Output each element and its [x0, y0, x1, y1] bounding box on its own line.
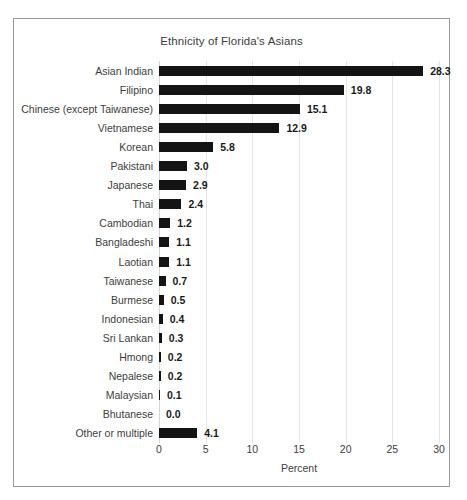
bar-category-label: Asian Indian [95, 65, 153, 77]
bar [159, 161, 187, 171]
x-tick-label: 25 [386, 443, 398, 455]
bar-category-label: Chinese (except Taiwanese) [21, 103, 153, 115]
bar-value-label: 0.1 [167, 389, 182, 401]
bar-row: Hmong0.2 [159, 348, 467, 367]
x-tick-label: 0 [156, 443, 162, 455]
bar-value-label: 5.8 [220, 141, 235, 153]
x-tick-label: 30 [433, 443, 445, 455]
bar-category-label: Other or multiple [75, 427, 153, 439]
bar-category-label: Nepalese [109, 370, 153, 382]
bar-category-label: Bhutanese [103, 408, 153, 420]
bar-value-label: 0.2 [168, 351, 183, 363]
x-axis-title: Percent [159, 462, 439, 474]
plot-area: Asian Indian28.3Filipino19.8Chinese (exc… [159, 61, 439, 443]
bar [159, 123, 279, 133]
bar-category-label: Malaysian [106, 389, 153, 401]
bar-value-label: 4.1 [204, 427, 219, 439]
bar-value-label: 19.8 [351, 84, 371, 96]
x-tick-label: 15 [293, 443, 305, 455]
bar-value-label: 28.3 [430, 65, 450, 77]
bar-row: Korean5.8 [159, 137, 467, 156]
bar [159, 85, 344, 95]
bar-row: Chinese (except Taiwanese)15.1 [159, 99, 467, 118]
bar-category-label: Bangladeshi [95, 236, 153, 248]
bar [159, 237, 169, 247]
bar-value-label: 2.4 [188, 198, 203, 210]
bar-row: Burmese0.5 [159, 290, 467, 309]
bar-row: Japanese2.9 [159, 176, 467, 195]
x-tick-label: 5 [203, 443, 209, 455]
bar-value-label: 0.5 [171, 294, 186, 306]
bar-value-label: 2.9 [193, 179, 208, 191]
bar [159, 199, 181, 209]
bar-category-label: Japanese [107, 179, 153, 191]
bar-row: Taiwanese0.7 [159, 271, 467, 290]
bar [159, 428, 197, 438]
bar-value-label: 0.0 [166, 408, 181, 420]
bar [159, 352, 161, 362]
bar-row: Bhutanese0.0 [159, 405, 467, 424]
bar-value-label: 1.1 [176, 256, 191, 268]
bar-row: Cambodian1.2 [159, 214, 467, 233]
bar-row: Pakistani3.0 [159, 157, 467, 176]
bar-row: Thai2.4 [159, 195, 467, 214]
bar-value-label: 12.9 [286, 122, 306, 134]
bar-category-label: Burmese [111, 294, 153, 306]
bar-row: Bangladeshi1.1 [159, 233, 467, 252]
bar-value-label: 0.3 [169, 332, 184, 344]
bar [159, 104, 300, 114]
bar [159, 142, 213, 152]
bar-value-label: 1.2 [177, 217, 192, 229]
bar-category-label: Thai [133, 198, 153, 210]
bar-category-label: Hmong [119, 351, 153, 363]
bar [159, 257, 169, 267]
bar-row: Filipino19.8 [159, 80, 467, 99]
chart-frame: Ethnicity of Florida's Asians Asian Indi… [13, 18, 450, 487]
bar-category-label: Korean [119, 141, 153, 153]
bar-row: Other or multiple4.1 [159, 424, 467, 443]
chart-title: Ethnicity of Florida's Asians [14, 35, 449, 47]
bar-category-label: Indonesian [102, 313, 153, 325]
x-tick-label: 20 [340, 443, 352, 455]
bar [159, 66, 423, 76]
bar [159, 333, 162, 343]
bar-row: Indonesian0.4 [159, 309, 467, 328]
bar-value-label: 0.2 [168, 370, 183, 382]
bar [159, 390, 160, 400]
bar-value-label: 3.0 [194, 160, 209, 172]
bar-category-label: Pakistani [110, 160, 153, 172]
bar-series: Asian Indian28.3Filipino19.8Chinese (exc… [159, 61, 439, 443]
bar-category-label: Taiwanese [103, 275, 153, 287]
x-axis: 051015202530 Percent [159, 443, 439, 483]
bar [159, 295, 164, 305]
bar-row: Vietnamese12.9 [159, 118, 467, 137]
bar [159, 218, 170, 228]
bar [159, 371, 161, 381]
bar [159, 180, 186, 190]
bar-category-label: Cambodian [99, 217, 153, 229]
bar-category-label: Vietnamese [98, 122, 153, 134]
bar-value-label: 0.7 [173, 275, 188, 287]
bar [159, 276, 166, 286]
bar-row: Asian Indian28.3 [159, 61, 467, 80]
bar-category-label: Laotian [119, 256, 153, 268]
bar-value-label: 0.4 [170, 313, 185, 325]
bar-value-label: 15.1 [307, 103, 327, 115]
bar [159, 314, 163, 324]
bar-row: Laotian1.1 [159, 252, 467, 271]
x-tick-label: 10 [246, 443, 258, 455]
bar-category-label: Filipino [120, 84, 153, 96]
bar-row: Sri Lankan0.3 [159, 328, 467, 347]
bar-row: Nepalese0.2 [159, 367, 467, 386]
bar-value-label: 1.1 [176, 236, 191, 248]
bar-category-label: Sri Lankan [103, 332, 153, 344]
bar-row: Malaysian0.1 [159, 386, 467, 405]
